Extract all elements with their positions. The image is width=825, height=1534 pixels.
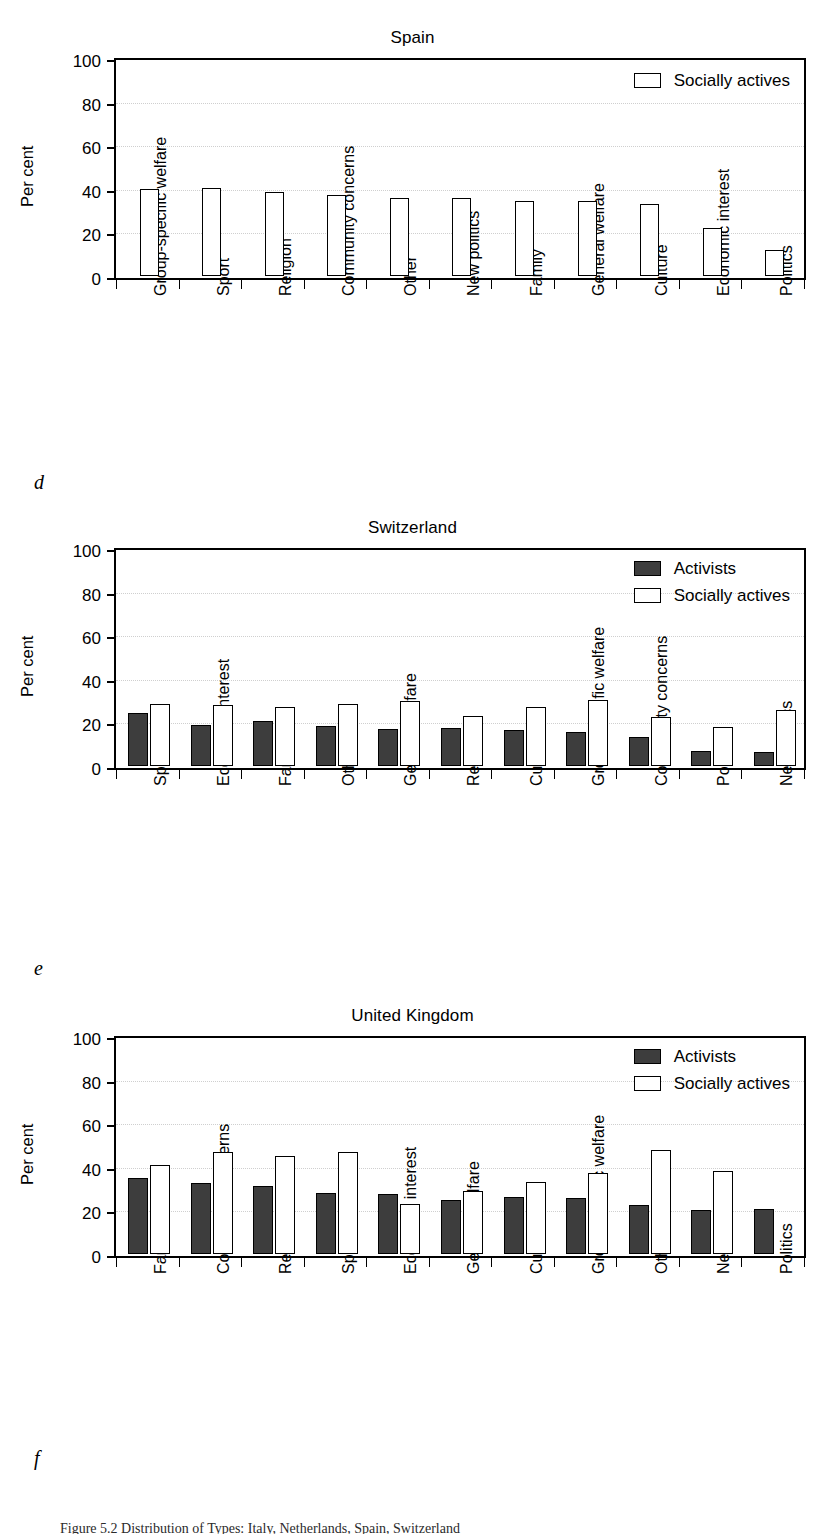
bar-socially-actives <box>713 1171 733 1254</box>
y-tick-mark <box>107 60 114 62</box>
y-tick-mark <box>107 724 114 726</box>
legend-swatch-activists <box>634 1049 661 1064</box>
bar-socially-actives <box>463 1191 483 1254</box>
y-tick-label: 100 <box>57 53 101 70</box>
x-tick-mark <box>304 1258 305 1267</box>
bar-group <box>118 1040 181 1254</box>
bar-group <box>118 62 181 276</box>
bar-activists <box>378 729 398 766</box>
bar-activists <box>441 1200 461 1255</box>
legend-label: Socially actives <box>674 72 790 89</box>
y-tick-mark <box>107 1038 114 1040</box>
y-tick-mark <box>107 1212 114 1214</box>
chart-title: Switzerland <box>0 518 825 538</box>
bar-group <box>431 552 494 766</box>
y-tick-label: 40 <box>57 1162 101 1179</box>
x-tick-mark <box>366 770 367 779</box>
x-tick-mark <box>554 1258 555 1267</box>
bar-socially-actives <box>338 704 358 766</box>
x-tick-mark <box>491 770 492 779</box>
x-tick-mark <box>616 280 617 289</box>
bar-activists <box>504 730 524 766</box>
panel-label-d: d <box>34 472 44 492</box>
bar-group <box>556 1040 619 1254</box>
legend-swatch-socially-actives <box>634 1076 661 1091</box>
x-tick-mark <box>304 770 305 779</box>
x-tick-mark <box>554 770 555 779</box>
bar-socially-actives <box>275 1156 295 1254</box>
plot-area: Socially actives020406080100Per cent <box>114 58 806 280</box>
bar-group <box>243 1040 306 1254</box>
bar-activists <box>191 725 211 766</box>
x-tick-mark <box>616 770 617 779</box>
y-tick-label: 20 <box>57 1205 101 1222</box>
y-axis-label: Per cent <box>18 146 37 207</box>
bar-activists <box>504 1197 524 1254</box>
chart-title: United Kingdom <box>0 1006 825 1026</box>
bar-socially-actives <box>578 201 597 276</box>
bar-activists <box>253 721 273 766</box>
bar-activists <box>754 1209 774 1254</box>
y-tick-mark <box>107 278 114 280</box>
bar-socially-actives <box>150 704 170 766</box>
legend-swatch-activists <box>634 561 661 576</box>
y-tick-mark <box>107 550 114 552</box>
bar-group <box>368 552 431 766</box>
bar-group <box>368 62 431 276</box>
y-tick-mark <box>107 234 114 236</box>
bar-group <box>556 62 619 276</box>
bar-activists <box>754 752 774 766</box>
legend-label: Activists <box>674 560 736 577</box>
bar-activists <box>441 728 461 766</box>
y-tick-label: 0 <box>57 761 101 778</box>
y-tick-label: 80 <box>57 97 101 114</box>
bar-activists <box>316 1193 336 1254</box>
x-tick-mark <box>679 770 680 779</box>
bar-socially-actives <box>765 250 784 276</box>
y-tick-label: 80 <box>57 587 101 604</box>
y-tick-mark <box>107 104 114 106</box>
bar-group <box>306 552 369 766</box>
bar-socially-actives <box>588 1173 608 1254</box>
x-tick-mark <box>491 280 492 289</box>
bar-group <box>493 62 556 276</box>
y-tick-mark <box>107 594 114 596</box>
bar-socially-actives <box>400 1204 420 1254</box>
y-tick-label: 100 <box>57 543 101 560</box>
x-tick-mark <box>241 280 242 289</box>
x-tick-mark <box>679 1258 680 1267</box>
x-tick-mark <box>116 770 117 779</box>
x-tick-mark <box>804 280 805 289</box>
x-tick-mark <box>304 280 305 289</box>
bar-socially-actives <box>651 1150 671 1254</box>
bar-group <box>181 1040 244 1254</box>
bar-group <box>431 62 494 276</box>
chart-title: Spain <box>0 28 825 48</box>
bar-group <box>556 552 619 766</box>
legend-label: Activists <box>674 1048 736 1065</box>
bar-socially-actives <box>400 701 420 766</box>
y-tick-label: 60 <box>57 140 101 157</box>
bar-socially-actives <box>213 705 233 766</box>
panel-label-e: e <box>34 958 43 978</box>
bar-socially-actives <box>588 700 608 766</box>
bar-socially-actives <box>390 198 409 276</box>
x-tick-mark <box>429 1258 430 1267</box>
x-tick-mark <box>804 770 805 779</box>
bar-group <box>493 552 556 766</box>
x-tick-mark <box>116 1258 117 1267</box>
bar-socially-actives <box>651 717 671 766</box>
y-tick-mark <box>107 1256 114 1258</box>
x-tick-mark <box>491 1258 492 1267</box>
legend-item: Socially actives <box>634 72 790 93</box>
bar-activists <box>316 726 336 766</box>
bar-socially-actives <box>452 198 471 276</box>
y-axis-label: Per cent <box>18 636 37 697</box>
x-tick-mark <box>116 280 117 289</box>
bar-socially-actives <box>338 1152 358 1254</box>
x-tick-mark <box>179 770 180 779</box>
y-tick-label: 0 <box>57 271 101 288</box>
y-tick-mark <box>107 147 114 149</box>
panel-label-f: f <box>34 1448 40 1468</box>
y-tick-label: 20 <box>57 717 101 734</box>
